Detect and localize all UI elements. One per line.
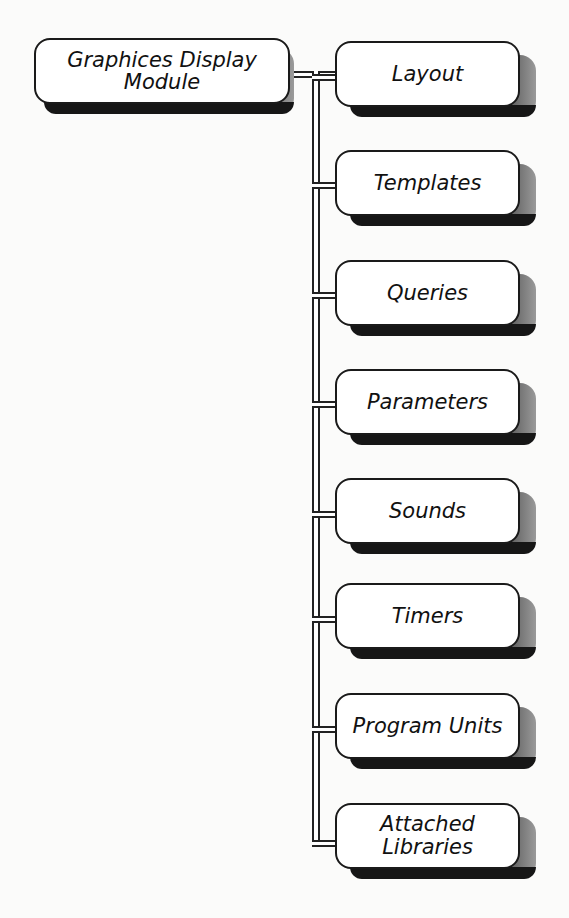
node-queries[interactable]: Queries xyxy=(335,260,520,326)
node-layout-label: Layout xyxy=(392,63,463,86)
node-program-units-label: Program Units xyxy=(353,715,503,738)
node-layout[interactable]: Layout xyxy=(335,41,520,107)
node-sounds[interactable]: Sounds xyxy=(335,478,520,544)
node-sounds-label: Sounds xyxy=(389,500,466,523)
node-timers[interactable]: Timers xyxy=(335,583,520,649)
node-templates[interactable]: Templates xyxy=(335,150,520,216)
node-queries-label: Queries xyxy=(387,282,468,305)
node-program-units[interactable]: Program Units xyxy=(335,693,520,759)
node-parameters[interactable]: Parameters xyxy=(335,369,520,435)
node-attached-libraries[interactable]: Attached Libraries xyxy=(335,803,520,869)
node-attached-libraries-label: Attached Libraries xyxy=(368,813,488,859)
node-parameters-label: Parameters xyxy=(367,391,488,414)
node-timers-label: Timers xyxy=(392,605,464,628)
root-node-label: Graphices Display Module xyxy=(57,49,267,93)
node-templates-label: Templates xyxy=(374,172,482,195)
root-node[interactable]: Graphices Display Module xyxy=(34,38,290,104)
